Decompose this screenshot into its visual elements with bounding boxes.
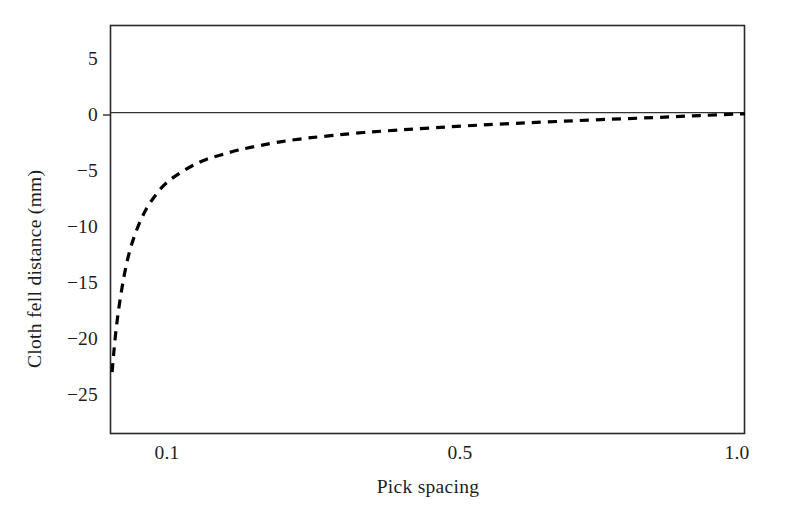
x-tick-label-0-1: 0.1 <box>155 442 180 464</box>
y-tick-label-neg20: −20 <box>38 328 98 350</box>
y-tick-label-neg15: −15 <box>38 272 98 294</box>
y-axis-title: Cloth fell distance (mm) <box>24 170 46 368</box>
y-tick-label-0: 0 <box>58 104 98 126</box>
y-tick-label-5: 5 <box>58 48 98 70</box>
x-axis-title: Pick spacing <box>377 476 480 498</box>
plot-canvas <box>0 0 785 513</box>
y-tick-label-neg25: −25 <box>38 384 98 406</box>
y-tick-label-neg5: −5 <box>48 160 98 182</box>
x-tick-label-0-5: 0.5 <box>448 442 473 464</box>
chart-figure: 5 0 −5 −10 −15 −20 −25 0.1 0.5 1.0 Cloth… <box>0 0 785 513</box>
y-tick-label-neg10: −10 <box>38 216 98 238</box>
x-tick-label-1-0: 1.0 <box>725 442 750 464</box>
plot-frame <box>111 26 745 434</box>
